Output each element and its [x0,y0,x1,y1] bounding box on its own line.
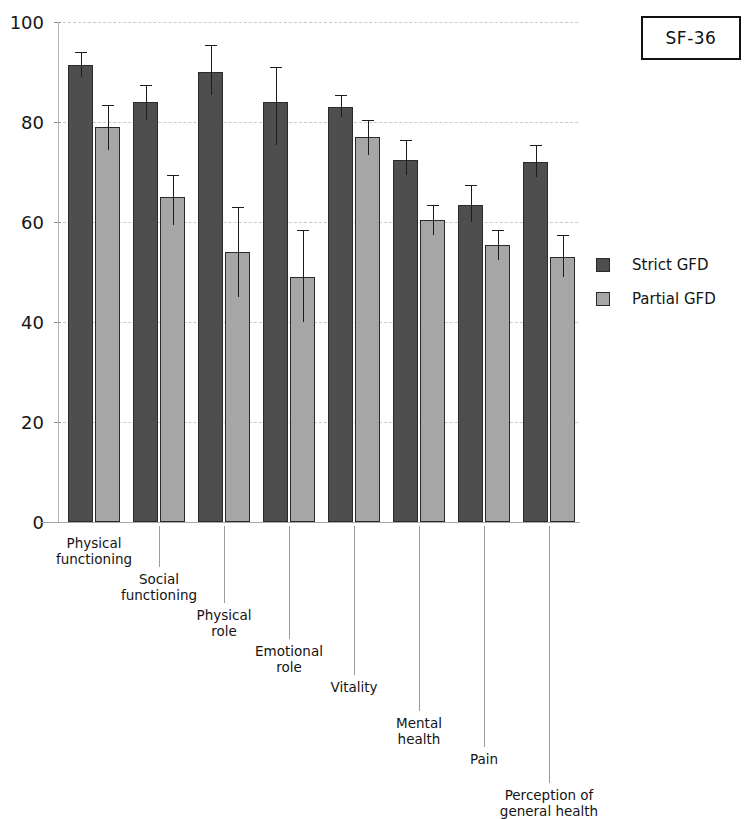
error-bar-stem [108,105,109,150]
bar-layer [0,0,600,560]
error-bar-stem [238,207,239,297]
error-bar-cap [362,120,374,121]
error-bar-cap [205,45,217,46]
category-label-line: Mental [396,715,442,731]
error-bar-cap [167,175,179,176]
category-label-line: Social [121,571,197,587]
error-bar-cap [232,207,244,208]
bar-strict [523,162,548,522]
x-axis-category-label: Emotionalrole [255,643,323,675]
error-bar-cap [427,205,439,206]
error-bar-stem [146,85,147,120]
error-bar-cap [335,95,347,96]
category-label-line: Physical [56,535,132,551]
error-bar-stem [368,120,369,155]
category-label-line: functioning [121,587,197,603]
sf36-title-box: SF-36 [641,16,741,60]
error-bar-cap [270,67,282,68]
bar-strict [133,102,158,522]
x-axis-category-label: Socialfunctioning [121,571,197,603]
bar-strict [68,65,93,523]
error-bar-stem [563,235,564,278]
category-label-line: functioning [56,551,132,567]
error-bar-cap [400,140,412,141]
category-leader-line [224,526,225,603]
error-bar-stem [81,52,82,77]
category-leader-line [419,526,420,711]
error-bar-cap [75,52,87,53]
error-bar-stem [341,95,342,118]
category-label-line: Pain [470,751,498,767]
legend-item[interactable]: Partial GFD [596,282,716,316]
category-leader-line [159,526,160,567]
category-leader-line [354,526,355,675]
error-bar-cap [102,105,114,106]
error-bar-stem [211,45,212,95]
category-label-line: Physical [197,607,252,623]
legend-item[interactable]: Strict GFD [596,248,716,282]
category-leader-line [289,526,290,639]
x-axis-category-label: Pain [470,751,498,767]
category-label-line: Perception of [500,787,598,803]
bar-partial [95,127,120,522]
sf36-title-label: SF-36 [666,28,717,48]
legend-swatch-icon [596,258,610,272]
category-leader-line [484,526,485,747]
bar-partial [550,257,575,522]
error-bar-stem [498,230,499,260]
bar-chart: 020406080100 [0,0,600,560]
x-axis-category-label: Physicalrole [197,607,252,639]
error-bar-stem [433,205,434,235]
bar-strict [393,160,418,523]
category-label-line: Emotional [255,643,323,659]
legend-label: Strict GFD [632,256,708,274]
bar-strict [328,107,353,522]
x-axis-category-label: Vitality [330,679,377,695]
error-bar-stem [536,145,537,178]
bar-strict [458,205,483,523]
category-label-line: role [197,623,252,639]
error-bar-cap [530,145,542,146]
error-bar-cap [465,185,477,186]
bar-partial [355,137,380,522]
category-label-line: Vitality [330,679,377,695]
error-bar-stem [303,230,304,323]
bar-partial [420,220,445,523]
error-bar-cap [297,230,309,231]
bar-strict [263,102,288,522]
category-label-line: health [396,731,442,747]
legend-swatch-icon [596,292,610,306]
error-bar-stem [406,140,407,175]
error-bar-stem [173,175,174,225]
category-leader-line [549,526,550,783]
error-bar-cap [492,230,504,231]
bar-strict [198,72,223,522]
error-bar-cap [140,85,152,86]
chart-legend: Strict GFDPartial GFD [596,248,716,316]
x-axis-category-label: Perception ofgeneral health [500,787,598,819]
error-bar-stem [471,185,472,223]
error-bar-cap [557,235,569,236]
x-axis-category-label: Physicalfunctioning [56,535,132,567]
category-label-line: role [255,659,323,675]
category-label-line: general health [500,803,598,819]
bar-partial [485,245,510,523]
x-axis-category-label: Mentalhealth [396,715,442,747]
legend-label: Partial GFD [632,290,716,308]
error-bar-stem [276,67,277,145]
bar-partial [160,197,185,522]
